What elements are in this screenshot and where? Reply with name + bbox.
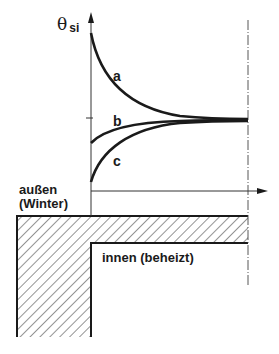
- outside-label-line1: außen: [19, 182, 57, 197]
- y-axis-label: θsi: [57, 14, 79, 35]
- curve-a-label: a: [113, 68, 121, 84]
- y-axis-arrow-icon: [88, 12, 94, 23]
- x-axis-arrow-icon: [257, 188, 268, 194]
- curve-c-label: c: [113, 153, 121, 169]
- inside-label: innen (beheizt): [102, 250, 194, 265]
- curve-b-label: b: [113, 113, 122, 129]
- wall-hatch-fill: [17, 216, 248, 337]
- wall-corner-temperature-diagram: θsi a b c außen (Winter) innen (beheizt): [0, 0, 279, 354]
- outside-label-line2: (Winter): [19, 196, 68, 211]
- wall-section: [17, 216, 248, 337]
